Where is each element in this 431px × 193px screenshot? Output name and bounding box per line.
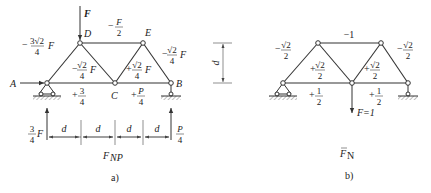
node-B <box>169 81 174 86</box>
label-node-E: E <box>144 27 151 38</box>
label-node-A: A <box>9 78 17 89</box>
reaction-left-label: 3 4 F <box>28 124 44 145</box>
svg-text:+: + <box>72 89 78 100</box>
svg-text:F: F <box>36 128 44 139</box>
svg-text:√2: √2 <box>77 60 86 70</box>
svg-text:4: 4 <box>80 97 85 107</box>
svg-text:+: + <box>369 89 375 100</box>
unit-load-label: F=1 <box>356 107 375 118</box>
diagram-a-title: F NP <box>102 150 123 163</box>
diagram-b-caption: b) <box>345 170 353 182</box>
svg-text:+: + <box>309 89 315 100</box>
svg-text:√2: √2 <box>315 60 324 70</box>
svg-text:P: P <box>137 86 144 96</box>
force-label-CB-b: + 1 2 <box>369 86 383 107</box>
svg-text:3√2: 3√2 <box>30 36 44 46</box>
node-B-b <box>406 81 411 86</box>
force-label-AD: − 3√2 4 F <box>22 36 55 57</box>
force-label-AC-b: + 1 2 <box>309 86 323 107</box>
svg-text:F: F <box>339 148 347 159</box>
truss-a: A D C E B F − 3√2 4 F − F 2 − √2 4 <box>9 6 187 184</box>
force-label-DE: − F 2 <box>108 17 123 38</box>
svg-text:4: 4 <box>170 56 175 66</box>
svg-text:F: F <box>102 150 110 161</box>
svg-text:P: P <box>176 124 183 134</box>
force-label-CE: + √2 4 F <box>126 60 152 81</box>
svg-text:3: 3 <box>30 124 35 134</box>
svg-text:−: − <box>397 43 403 54</box>
applied-load-label: F <box>83 8 91 19</box>
svg-text:4: 4 <box>139 97 144 107</box>
svg-text:1: 1 <box>377 86 382 96</box>
svg-text:2: 2 <box>318 71 323 81</box>
node-E-b <box>379 41 384 46</box>
truss-b: F=1 − √2 2 −1 − √2 2 + √2 2 + √2 2 <box>269 29 418 182</box>
height-dimension: d <box>210 43 232 83</box>
svg-text:d: d <box>62 123 68 134</box>
svg-text:1: 1 <box>317 86 322 96</box>
node-D <box>78 41 83 46</box>
svg-text:2: 2 <box>117 28 122 38</box>
svg-text:F: F <box>144 64 152 75</box>
svg-text:2: 2 <box>284 51 289 61</box>
svg-text:4: 4 <box>30 135 35 145</box>
label-node-B: B <box>176 78 182 89</box>
svg-text:N: N <box>347 150 354 161</box>
label-node-D: D <box>83 28 92 39</box>
svg-text:√2: √2 <box>403 40 412 50</box>
diagram-b-title: F N <box>339 148 354 161</box>
svg-text:4: 4 <box>178 135 183 145</box>
svg-text:2: 2 <box>317 97 322 107</box>
svg-text:√2: √2 <box>370 60 379 70</box>
node-C-b <box>350 81 355 86</box>
label-node-C: C <box>111 90 118 101</box>
svg-text:F: F <box>47 40 55 51</box>
svg-text:√2: √2 <box>132 60 141 70</box>
svg-text:F: F <box>115 17 122 27</box>
svg-text:4: 4 <box>80 71 85 81</box>
node-C <box>113 81 118 86</box>
svg-text:2: 2 <box>373 71 378 81</box>
node-A <box>45 81 50 86</box>
svg-text:d: d <box>155 123 161 134</box>
svg-text:+: + <box>364 63 370 74</box>
force-label-AD-b: − √2 2 <box>275 40 291 61</box>
svg-text:−: − <box>22 39 28 50</box>
force-label-CE-b: + √2 2 <box>364 60 380 81</box>
force-label-AC: + 3 4 <box>72 86 86 107</box>
svg-text:−: − <box>108 20 114 31</box>
reaction-right-label: P 4 <box>176 124 184 145</box>
svg-text:3: 3 <box>80 86 85 96</box>
svg-text:d: d <box>210 60 221 66</box>
svg-text:2: 2 <box>406 51 411 61</box>
force-label-DC-b: + √2 2 <box>310 60 325 81</box>
svg-text:2: 2 <box>377 97 382 107</box>
node-A-b <box>281 81 286 86</box>
svg-text:4: 4 <box>35 47 40 57</box>
force-label-DE-b: −1 <box>344 29 355 40</box>
force-label-DC: − √2 4 F <box>72 60 97 81</box>
svg-text:NP: NP <box>109 152 123 163</box>
svg-text:d: d <box>127 123 133 134</box>
svg-text:−: − <box>275 43 281 54</box>
force-label-CB: + P 4 <box>131 86 145 107</box>
svg-text:+: + <box>131 89 137 100</box>
node-D-b <box>316 41 321 46</box>
svg-text:F: F <box>89 64 97 75</box>
diagram-a-caption: a) <box>111 172 119 184</box>
svg-text:4: 4 <box>135 71 140 81</box>
truss-diagrams: A D C E B F − 3√2 4 F − F 2 − √2 4 <box>0 0 431 193</box>
svg-text:F: F <box>179 49 187 60</box>
svg-text:√2: √2 <box>167 45 176 55</box>
svg-text:+: + <box>126 63 132 74</box>
force-label-EB: − √2 4 F <box>162 45 187 66</box>
svg-text:√2: √2 <box>281 40 290 50</box>
span-dimensions: d d d d <box>49 120 169 145</box>
force-label-EB-b: − √2 2 <box>397 40 413 61</box>
node-E <box>141 41 146 46</box>
svg-text:d: d <box>96 123 102 134</box>
